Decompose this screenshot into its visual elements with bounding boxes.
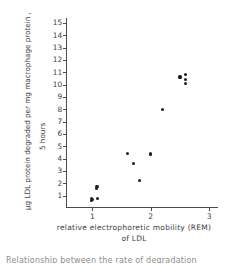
y-tick-mark (63, 23, 67, 24)
x-tick-mark (151, 207, 152, 211)
y-tick-label: 4 (44, 155, 62, 162)
y-tick-label: 11 (44, 69, 62, 76)
y-tick-mark (63, 85, 67, 86)
data-point (95, 185, 98, 188)
y-tick-mark (63, 48, 67, 49)
x-tick-label: 3 (201, 213, 217, 221)
data-point (184, 73, 187, 76)
y-tick-mark (63, 60, 67, 61)
x-axis-line (66, 207, 218, 208)
data-point (126, 152, 129, 155)
y-axis-line (66, 18, 67, 208)
y-tick-mark (63, 72, 67, 73)
y-tick-label: 15 (44, 19, 62, 26)
y-tick-label: 12 (44, 56, 62, 63)
x-axis-title-line1: relative electrophoretic mobility (REM) (40, 222, 228, 233)
y-tick-label: 8 (44, 106, 62, 113)
figure-caption: Relationship between the rate of degrada… (6, 256, 232, 263)
data-point (184, 82, 187, 85)
y-tick-mark (63, 171, 67, 172)
y-tick-label: 13 (44, 44, 62, 51)
y-tick-mark (63, 183, 67, 184)
y-tick-label: 5 (44, 143, 62, 150)
x-axis-title-line2: of LDL (40, 233, 228, 244)
x-tick-mark (92, 207, 93, 211)
x-tick-label: 2 (143, 213, 159, 221)
x-tick-label: 1 (84, 213, 100, 221)
y-tick-label: 7 (44, 118, 62, 125)
y-tick-mark (63, 97, 67, 98)
y-axis-title-line1: µg LDL protein degraded per mg macrophag… (24, 12, 32, 210)
y-tick-mark (63, 35, 67, 36)
data-point (138, 179, 141, 182)
y-tick-mark (63, 159, 67, 160)
plot-area (66, 18, 218, 208)
y-tick-mark (63, 196, 67, 197)
data-point (184, 78, 187, 81)
y-tick-label: 1 (44, 192, 62, 199)
data-point (178, 75, 181, 78)
y-tick-mark (63, 134, 67, 135)
y-tick-mark (63, 146, 67, 147)
y-tick-label: 6 (44, 130, 62, 137)
y-tick-label: 14 (44, 32, 62, 39)
y-tick-label: 10 (44, 81, 62, 88)
data-point (161, 108, 164, 111)
y-tick-label: 9 (44, 93, 62, 100)
x-axis-title: relative electrophoretic mobility (REM) … (40, 222, 228, 244)
y-tick-mark (63, 109, 67, 110)
y-tick-mark (63, 122, 67, 123)
data-point (149, 152, 152, 155)
x-tick-mark (209, 207, 210, 211)
data-point (132, 162, 135, 165)
data-point (91, 198, 94, 201)
y-tick-label: 2 (44, 180, 62, 187)
data-point (96, 197, 99, 200)
y-axis-title: µg LDL protein degraded per mg macrophag… (0, 0, 46, 214)
y-tick-label: 3 (44, 167, 62, 174)
figure-container: µg LDL protein degraded per mg macrophag… (0, 0, 232, 264)
